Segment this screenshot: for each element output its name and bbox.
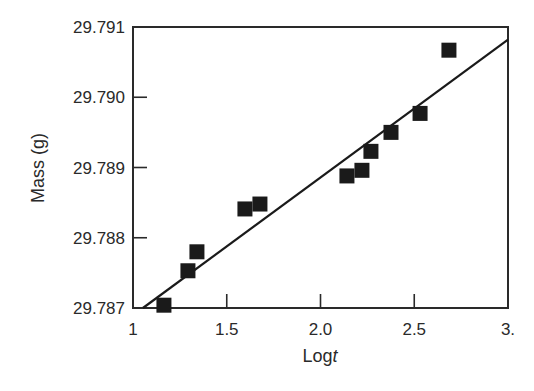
y-tick-label: 29.790	[73, 88, 125, 107]
x-tick-label: 2.0	[309, 320, 333, 339]
data-point-square	[354, 163, 369, 178]
data-points	[156, 43, 456, 313]
scatter-chart: 11.52.02.53. 29.78729.78829.78929.79029.…	[0, 0, 534, 391]
chart-container: 11.52.02.53. 29.78729.78829.78929.79029.…	[0, 0, 534, 391]
data-point-square	[189, 244, 204, 259]
x-tick-label: 3.	[501, 320, 515, 339]
data-point-square	[441, 43, 456, 58]
data-point-square	[156, 298, 171, 313]
data-point-square	[237, 201, 252, 216]
y-tick-label: 29.789	[73, 159, 125, 178]
data-point-square	[413, 106, 428, 121]
y-tick-label: 29.791	[73, 18, 125, 37]
x-tick-label: 1	[128, 320, 137, 339]
y-axis-ticks: 29.78729.78829.78929.79029.791	[73, 18, 147, 318]
data-point-square	[180, 263, 195, 278]
data-point-square	[384, 125, 399, 140]
regression-line	[143, 40, 508, 308]
x-tick-label: 2.5	[402, 320, 426, 339]
data-point-square	[252, 197, 267, 212]
y-axis-label: Mass (g)	[28, 133, 48, 203]
x-axis-ticks: 11.52.02.53.	[128, 294, 515, 339]
x-axis-label: Logt	[302, 346, 338, 366]
fit-line	[143, 40, 508, 308]
x-tick-label: 1.5	[215, 320, 239, 339]
y-tick-label: 29.787	[73, 299, 125, 318]
y-tick-label: 29.788	[73, 229, 125, 248]
data-point-square	[363, 144, 378, 159]
data-point-square	[339, 168, 354, 183]
